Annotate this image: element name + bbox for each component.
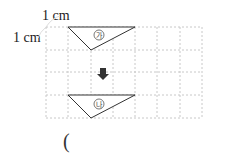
grid-diagram: 가 나: [0, 0, 228, 162]
answer-paren: (: [63, 130, 70, 153]
unit-brackets: [38, 16, 60, 38]
label-ga: 가: [96, 31, 103, 40]
label-na: 나: [96, 100, 103, 109]
grid-lines: [46, 27, 202, 118]
down-arrow-icon: [97, 68, 109, 80]
